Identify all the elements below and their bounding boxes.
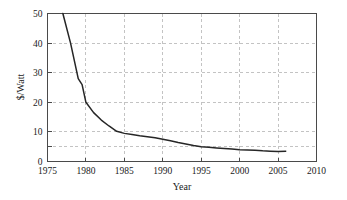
x-tick-label: 2010 bbox=[307, 166, 326, 176]
x-tick-label: 2000 bbox=[230, 166, 249, 176]
y-tick-label: 20 bbox=[33, 98, 43, 108]
x-tick-label: 2005 bbox=[269, 166, 288, 176]
y-axis-title: $/Watt bbox=[15, 74, 26, 101]
x-axis-title: Year bbox=[173, 181, 192, 192]
x-tick-label: 1980 bbox=[76, 166, 95, 176]
y-tick-label: 30 bbox=[33, 68, 43, 78]
chart-figure: 19751980198519901995200020052010 0102030… bbox=[0, 0, 347, 200]
y-tick-label: 40 bbox=[33, 39, 43, 49]
x-tick-label: 1995 bbox=[192, 166, 211, 176]
x-tick-label: 1990 bbox=[153, 166, 172, 176]
x-tick-label: 1985 bbox=[115, 166, 134, 176]
y-tick-label: 10 bbox=[33, 127, 43, 137]
y-tick-label: 0 bbox=[38, 157, 43, 167]
x-tick-label: 1975 bbox=[38, 166, 57, 176]
y-tick-label: 50 bbox=[33, 9, 43, 19]
line-chart: 19751980198519901995200020052010 0102030… bbox=[0, 0, 347, 200]
